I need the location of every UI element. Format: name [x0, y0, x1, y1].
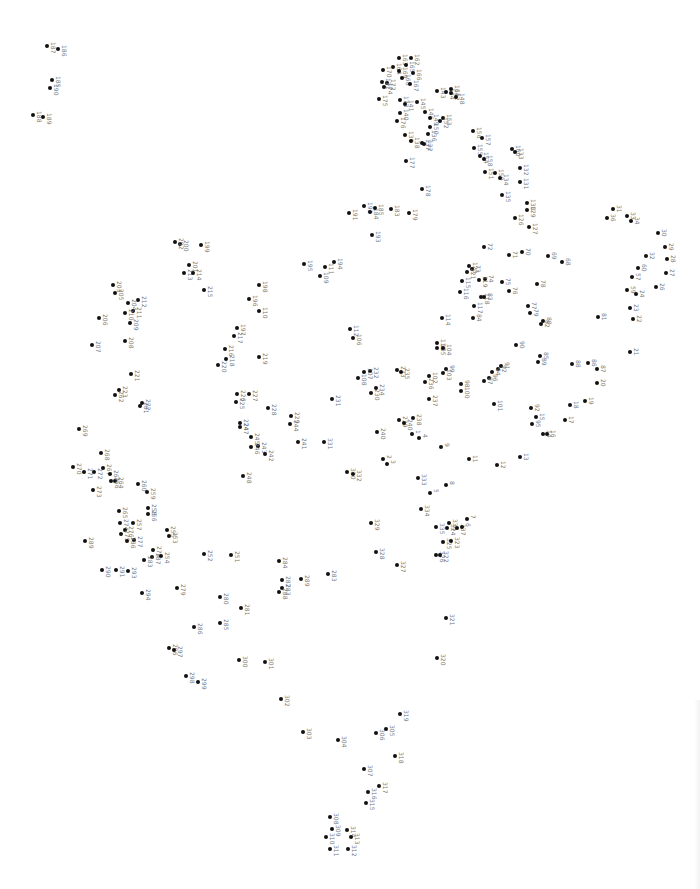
dot-number-label: 185	[378, 204, 384, 215]
puzzle-dot	[82, 470, 86, 474]
puzzle-dot	[397, 69, 401, 73]
puzzle-dot	[191, 271, 195, 275]
dot-number-label: 175	[382, 95, 388, 106]
puzzle-dot	[257, 309, 261, 313]
puzzle-dot	[277, 590, 281, 594]
dot-number-label: 252	[207, 550, 213, 561]
puzzle-dot	[202, 552, 206, 556]
puzzle-dot	[382, 85, 386, 89]
puzzle-dot	[237, 658, 241, 662]
puzzle-dot	[117, 509, 121, 513]
dot-number-label: 310	[329, 833, 335, 844]
puzzle-dot	[395, 119, 399, 123]
dot-number-label: 231	[335, 395, 341, 406]
puzzle-dot	[234, 400, 238, 404]
puzzle-dot	[238, 425, 242, 429]
dot-number-label: 145	[420, 98, 426, 109]
dot-number-label: 321	[449, 614, 455, 625]
dot-number-label: 132	[523, 164, 529, 175]
puzzle-dot	[428, 116, 432, 120]
dot-number-label: 329	[374, 519, 380, 530]
dot-number-label: 301	[268, 658, 274, 669]
puzzle-dot	[398, 111, 402, 115]
dot-number-label: 220	[221, 361, 227, 372]
puzzle-dot	[539, 322, 543, 326]
puzzle-dot	[498, 176, 502, 180]
puzzle-dot	[323, 265, 327, 269]
dot-number-label: 246	[254, 443, 260, 454]
dot-number-label: 170	[386, 66, 392, 77]
puzzle-dot	[90, 343, 94, 347]
puzzle-dot	[140, 591, 144, 595]
puzzle-dot	[404, 159, 408, 163]
dot-number-label: 2	[386, 455, 392, 459]
dot-number-label: 228	[271, 404, 277, 415]
puzzle-dot	[423, 110, 427, 114]
puzzle-dot	[465, 517, 469, 521]
dot-number-label: 131	[523, 178, 529, 189]
puzzle-dot	[423, 380, 427, 384]
dot-number-label: 97	[487, 377, 493, 385]
dot-number-label: 88	[575, 360, 581, 368]
dot-number-label: 290	[105, 566, 111, 577]
puzzle-dot	[535, 282, 539, 286]
dot-number-label: 312	[351, 845, 357, 856]
dot-number-label: 127	[532, 223, 538, 234]
puzzle-dot	[223, 347, 227, 351]
puzzle-dot	[56, 47, 60, 51]
puzzle-dot	[665, 257, 669, 261]
puzzle-dot	[159, 554, 163, 558]
puzzle-dot	[402, 421, 406, 425]
puzzle-dot	[301, 730, 305, 734]
puzzle-dot	[628, 306, 632, 310]
dot-number-label: 202	[178, 238, 184, 249]
puzzle-dot	[50, 78, 54, 82]
puzzle-dot	[629, 219, 633, 223]
puzzle-dot	[427, 397, 431, 401]
puzzle-dot	[347, 211, 351, 215]
puzzle-dot	[417, 436, 421, 440]
puzzle-dot	[416, 476, 420, 480]
puzzle-dot	[482, 157, 486, 161]
dot-number-label: 304	[341, 736, 347, 747]
puzzle-dot	[500, 280, 504, 284]
dot-number-label: 100	[464, 387, 470, 398]
puzzle-dot	[235, 326, 239, 330]
dot-number-label: 36	[610, 214, 616, 222]
dot-number-label: 254	[164, 552, 170, 563]
puzzle-dot	[368, 210, 372, 214]
puzzle-dot	[459, 382, 463, 386]
dot-number-label: 133	[518, 148, 524, 159]
puzzle-dot	[628, 350, 632, 354]
puzzle-dot	[328, 815, 332, 819]
dot-number-label: 288	[282, 588, 288, 599]
puzzle-dot	[128, 321, 132, 325]
dot-number-label: 3	[390, 460, 396, 464]
puzzle-dot	[518, 455, 522, 459]
puzzle-dot	[302, 262, 306, 266]
dot-number-label: 81	[601, 313, 607, 321]
dot-number-label: 126	[518, 214, 524, 225]
puzzle-dot	[123, 339, 127, 343]
dot-number-label: 186	[61, 45, 67, 56]
dot-number-label: 217	[237, 332, 243, 343]
puzzle-dot	[644, 254, 648, 258]
dot-number-label: 191	[352, 209, 358, 220]
puzzle-dot	[131, 521, 135, 525]
puzzle-dot	[277, 559, 281, 563]
puzzle-dot	[351, 472, 355, 476]
dot-number-label: 70	[525, 248, 531, 256]
puzzle-dot	[385, 462, 389, 466]
puzzle-dot	[322, 440, 326, 444]
dot-number-label: 26	[659, 283, 665, 291]
dot-number-label: 152	[443, 117, 449, 128]
puzzle-dot	[146, 512, 150, 516]
puzzle-dot	[299, 577, 303, 581]
puzzle-dot	[218, 595, 222, 599]
puzzle-dot	[374, 550, 378, 554]
puzzle-dot	[399, 370, 403, 374]
puzzle-dot	[428, 125, 432, 129]
dot-number-label: 279	[180, 584, 186, 595]
puzzle-dot	[362, 204, 366, 208]
dot-number-label: 30	[661, 229, 667, 237]
